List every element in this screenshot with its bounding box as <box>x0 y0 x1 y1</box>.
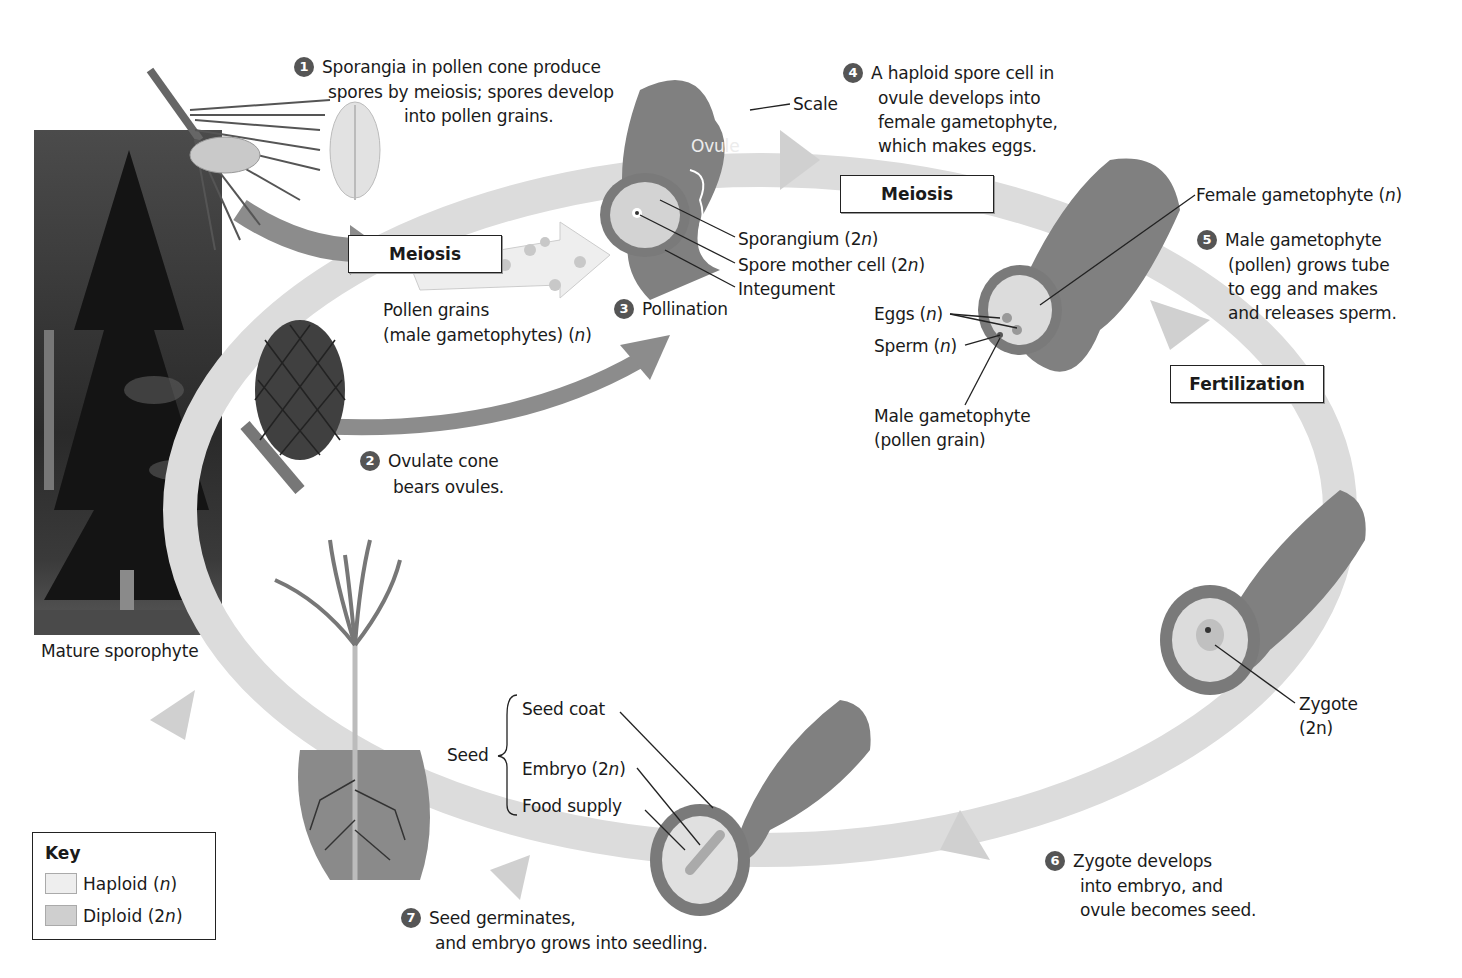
cycle-arrow-icon <box>150 690 195 740</box>
step-7-line-2: and embryo grows into seedling. <box>435 931 708 955</box>
step-1-line-2: spores by meiosis; spores develop <box>328 80 614 104</box>
step-badge: 6 <box>1045 851 1065 871</box>
step-6-line-3: ovule becomes seed. <box>1080 898 1256 922</box>
step-badge: 5 <box>1197 230 1217 250</box>
step-3: 3Pollination <box>614 297 728 321</box>
label-pollen-grains: Pollen grains <box>383 298 489 322</box>
step-4-line-4: which makes eggs. <box>878 134 1037 158</box>
label-seed-coat: Seed coat <box>522 697 605 721</box>
ovule-scale-4 <box>650 700 871 916</box>
legend-item-haploid: Haploid (n) <box>45 873 177 895</box>
step-badge: 3 <box>614 299 634 319</box>
legend-key: Key Haploid (n) Diploid (2n) <box>32 832 216 940</box>
step-badge: 4 <box>843 63 863 83</box>
step-2: 2Ovulate cone <box>360 449 498 473</box>
step-badge: 7 <box>401 908 421 928</box>
step-1: 1Sporangia in pollen cone produce <box>294 55 601 79</box>
label-mature-sporophyte: Mature sporophyte <box>41 639 198 663</box>
step-4-line-2: ovule develops into <box>878 86 1041 110</box>
step-5-line-2: (pollen) grows tube <box>1228 253 1389 277</box>
label-sporangium: Sporangium (2n) <box>738 227 878 251</box>
label-eggs: Eggs (n) <box>874 302 943 326</box>
step-7: 7Seed germinates, <box>401 906 576 930</box>
pollen-cone-section-icon <box>330 102 380 200</box>
legend-item-diploid: Diploid (2n) <box>45 905 183 927</box>
pollen-cone-icon <box>190 137 260 173</box>
step-badge: 2 <box>360 451 380 471</box>
diploid-swatch <box>45 905 77 926</box>
label-male-gametophytes: (male gametophytes) (n) <box>383 323 592 347</box>
step-6-line-2: into embryo, and <box>1080 874 1223 898</box>
step-badge: 1 <box>294 57 314 77</box>
fertilization-box: Fertilization <box>1170 365 1324 403</box>
cycle-arrow-icon <box>490 855 530 900</box>
haploid-swatch <box>45 873 77 894</box>
label-zygote: Zygote <box>1299 692 1358 716</box>
label-spore-mother-cell: Spore mother cell (2n) <box>738 253 925 277</box>
step-6: 6Zygote develops <box>1045 849 1212 873</box>
label-zygote-ploidy: (2n) <box>1299 716 1333 740</box>
step-2-line-2: bears ovules. <box>393 475 504 499</box>
step-1-line-3: into pollen grains. <box>404 104 553 128</box>
label-sperm: Sperm (n) <box>874 334 957 358</box>
step-4: 4A haploid spore cell in <box>843 61 1054 85</box>
step-5-line-4: and releases sperm. <box>1228 301 1397 325</box>
label-integument: Integument <box>738 277 835 301</box>
step-5-line-3: to egg and makes <box>1228 277 1378 301</box>
pine-life-cycle-diagram: Meiosis Meiosis Fertilization 1Sporangia… <box>0 0 1462 978</box>
step-4-line-3: female gametophyte, <box>878 110 1058 134</box>
label-seed: Seed <box>447 743 489 767</box>
legend-title: Key <box>45 843 81 863</box>
label-female-gametophyte: Female gametophyte (n) <box>1196 183 1402 207</box>
step-5: 5Male gametophyte <box>1197 228 1382 252</box>
label-pollen-grain: (pollen grain) <box>874 428 985 452</box>
meiosis-box-left: Meiosis <box>348 235 502 273</box>
label-male-gametophyte: Male gametophyte <box>874 404 1031 428</box>
ovule-scale-1 <box>600 80 725 300</box>
label-ovule: Ovule <box>691 134 739 158</box>
label-scale: Scale <box>793 92 838 116</box>
meiosis-box-right: Meiosis <box>840 175 994 213</box>
label-embryo: Embryo (2n) <box>522 757 626 781</box>
label-food-supply: Food supply <box>522 794 622 818</box>
